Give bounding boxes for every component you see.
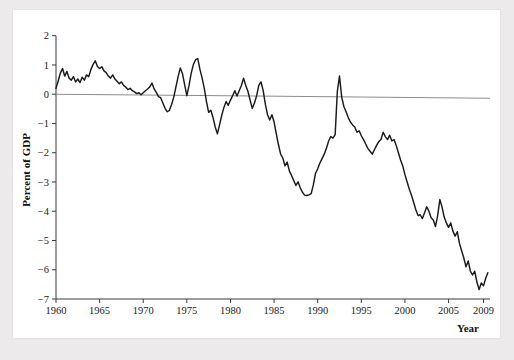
x-axis-title: Year — [457, 322, 479, 334]
y-axis-title: Percent of GDP — [20, 133, 32, 207]
x-tick-label: 1985 — [264, 305, 285, 316]
x-tick-label: 2000 — [394, 305, 415, 316]
y-tick-label: 2 — [44, 30, 49, 41]
line-chart: 210−1−2−3−4−5−6−7 1960196519701975198019… — [13, 10, 500, 338]
y-tick-label: −5 — [38, 235, 49, 246]
y-tick-label: −4 — [38, 206, 50, 217]
y-tick-label: 0 — [44, 89, 49, 100]
x-tick-label: 1975 — [176, 305, 197, 316]
y-tick-label: −3 — [38, 177, 49, 188]
x-tick-label: 1965 — [89, 305, 110, 316]
y-tick-label: 1 — [44, 60, 49, 71]
y-tick-label: −2 — [38, 147, 49, 158]
x-tick-label: 1990 — [307, 305, 328, 316]
zero-reference-line — [56, 94, 490, 98]
figure-root: 210−1−2−3−4−5−6−7 1960196519701975198019… — [0, 0, 514, 360]
x-tick-label: 2005 — [438, 305, 459, 316]
y-tick-label: −7 — [38, 294, 49, 305]
x-axis-ticks: 1960196519701975198019851990199520002005… — [46, 299, 494, 316]
x-tick-label: 2009 — [473, 305, 494, 316]
x-tick-label: 1970 — [133, 305, 154, 316]
x-tick-label: 1995 — [351, 305, 372, 316]
x-tick-label: 1980 — [220, 305, 241, 316]
chart-panel: 210−1−2−3−4−5−6−7 1960196519701975198019… — [13, 10, 500, 338]
data-series-line — [56, 59, 488, 290]
y-axis-ticks: 210−1−2−3−4−5−6−7 — [38, 30, 56, 304]
x-tick-label: 1960 — [46, 305, 67, 316]
y-tick-label: −6 — [38, 264, 49, 275]
y-tick-label: −1 — [38, 118, 49, 129]
